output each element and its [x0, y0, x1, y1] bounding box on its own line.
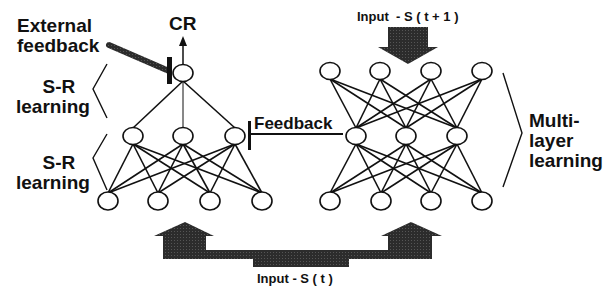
sr-learning-bottom-label: S-R learning — [16, 153, 90, 193]
input-next-label: Input - S ( t + 1 ) — [357, 10, 458, 24]
left-input-node — [252, 192, 272, 210]
right-hidden-node — [346, 128, 366, 145]
multilayer-learning-bracket — [503, 73, 522, 187]
sr-learning-bottom-line-1: S-R — [16, 153, 90, 173]
external-feedback-line-2: feedback — [17, 36, 99, 56]
right-top-node — [370, 63, 390, 80]
external-feedback-line-1: External — [17, 16, 99, 36]
left-input-node — [200, 192, 220, 210]
right-bottom-node — [320, 192, 340, 210]
right-top-node — [421, 63, 441, 80]
cr-label: CR — [169, 14, 196, 34]
left-input-node — [148, 192, 168, 210]
right-top-node — [320, 63, 340, 80]
left-hidden-node — [225, 128, 245, 145]
left-hidden-node — [173, 128, 193, 145]
cr-arrow-icon — [179, 36, 187, 64]
sr-learning-bottom-line-2: learning — [16, 173, 90, 193]
external-feedback-connector — [109, 45, 172, 84]
input-next-arrow-icon — [378, 27, 438, 64]
right-top-node — [472, 63, 492, 80]
left-output-node — [173, 65, 193, 82]
sr-learning-bracket-top — [93, 64, 107, 118]
left-hidden-node — [123, 128, 143, 145]
multilayer-line-3: learning — [529, 151, 603, 171]
feedback-label: Feedback — [254, 115, 332, 135]
external-feedback-label: External feedback — [17, 16, 99, 56]
multilayer-learning-label: Multi- layer learning — [529, 111, 603, 171]
right-bottom-node — [371, 192, 391, 210]
right-hidden-node — [447, 128, 467, 145]
sr-learning-top-line-1: S-R — [16, 77, 90, 97]
right-hidden-node — [396, 128, 416, 145]
sr-learning-top-label: S-R learning — [16, 77, 90, 117]
multilayer-line-2: layer — [529, 131, 603, 151]
input-current-arrow-icon — [154, 222, 442, 267]
sr-learning-top-line-2: learning — [16, 97, 90, 117]
right-bottom-node — [421, 192, 441, 210]
sr-learning-bracket-bottom — [93, 134, 107, 190]
left-input-node — [98, 192, 118, 210]
right-bottom-node — [472, 192, 492, 210]
multilayer-line-1: Multi- — [529, 111, 603, 131]
input-current-label: Input - S ( t ) — [257, 272, 333, 286]
